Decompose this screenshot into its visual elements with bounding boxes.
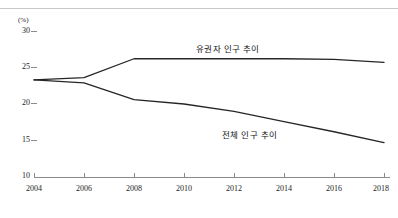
chart-canvas (0, 0, 398, 218)
data-line-total-population (34, 80, 384, 143)
y-axis-tick-marks (31, 32, 37, 141)
data-line-voter-population (34, 59, 384, 80)
chart-figure: (%) 30 25 20 15 10 2004 2006 2008 2010 2… (0, 0, 398, 218)
